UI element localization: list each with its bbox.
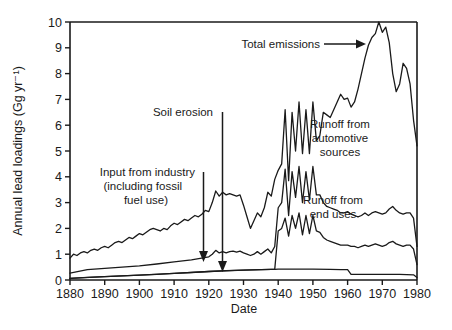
annotation-input-industry-line2: (including fossil (103, 180, 182, 192)
y-tick-label-6: 6 (55, 119, 62, 133)
y-axis-title: Annual lead loadings (Gg yr⁻¹) (11, 66, 25, 236)
x-tick-label-1890: 1890 (91, 287, 119, 301)
annotation-soil-erosion: Soil erosion (153, 106, 213, 118)
x-tick-label-1920: 1920 (195, 287, 223, 301)
x-tick-label-1960: 1960 (334, 287, 362, 301)
annotation-runoff-auto-line3: sources (320, 146, 361, 158)
annotation-runoff-auto-line2: automotive (312, 132, 368, 144)
annotation-input-industry-line1: Input from industry (100, 166, 195, 178)
y-tick-label-10: 10 (48, 16, 62, 30)
y-tick-label-0: 0 (55, 274, 62, 288)
y-tick-label-9: 9 (55, 41, 62, 55)
y-tick-label-7: 7 (55, 93, 62, 107)
x-tick-label-1880: 1880 (56, 287, 84, 301)
y-tick-label-2: 2 (55, 222, 62, 236)
annotation-input-industry-line3: fuel use) (124, 194, 168, 206)
annotation-total-emissions: Total emissions (241, 38, 320, 50)
x-tick-label-1940: 1940 (264, 287, 292, 301)
chart-figure: 012345678910 188018901900191019201930194… (0, 0, 452, 330)
y-tick-label-8: 8 (55, 67, 62, 81)
annotation-runoff-end-line2: end uses (310, 208, 357, 220)
y-tick-label-1: 1 (55, 248, 62, 262)
annotation-runoff-auto-line1: Runoff from (310, 118, 370, 130)
x-axis-title: Date (231, 302, 257, 316)
x-tick-label-1950: 1950 (299, 287, 327, 301)
x-tick-label-1900: 1900 (125, 287, 153, 301)
y-tick-label-5: 5 (55, 145, 62, 159)
x-tick-label-1910: 1910 (160, 287, 188, 301)
x-tick-label-1930: 1930 (230, 287, 258, 301)
lead-loadings-line-chart: 012345678910 188018901900191019201930194… (0, 0, 452, 330)
x-tick-label-1970: 1970 (368, 287, 396, 301)
annotation-runoff-end-line1: Runoff from (303, 194, 363, 206)
x-tick-label-1980: 1980 (403, 287, 431, 301)
y-tick-label-3: 3 (55, 196, 62, 210)
y-tick-label-4: 4 (55, 170, 62, 184)
